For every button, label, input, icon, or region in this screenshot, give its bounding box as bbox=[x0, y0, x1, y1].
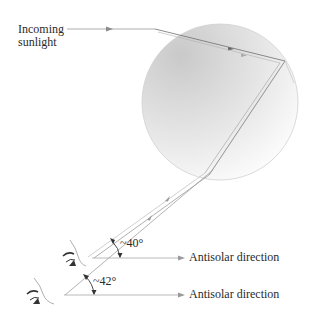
angle-label-40: ~40° bbox=[120, 237, 143, 250]
ray-arrow-icon-4 bbox=[147, 215, 152, 221]
antisolar-label-upper: Antisolar direction bbox=[189, 251, 279, 264]
eye-icon bbox=[27, 278, 54, 304]
angle-arrow-icon bbox=[92, 290, 97, 295]
exit-ray-upper-2 bbox=[88, 173, 205, 257]
angle-arrow-icon bbox=[118, 253, 123, 258]
antisolar-arrow-icon-lower bbox=[178, 293, 185, 298]
raindrop bbox=[142, 24, 298, 180]
incoming-arrow-icon bbox=[106, 27, 113, 32]
antisolar-arrow-icon-upper bbox=[178, 256, 185, 261]
angle-label-42: ~42° bbox=[93, 275, 116, 288]
incoming-sunlight-label: Incoming sunlight bbox=[18, 23, 64, 49]
antisolar-label-lower: Antisolar direction bbox=[189, 288, 279, 301]
eye-icon bbox=[63, 240, 86, 266]
incoming-label-line2: sunlight bbox=[18, 36, 64, 49]
